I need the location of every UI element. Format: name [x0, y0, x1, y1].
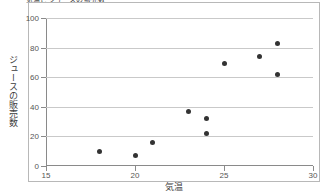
- data-point: [204, 131, 209, 136]
- data-point: [97, 149, 102, 154]
- gridline-horizontal: [46, 107, 313, 108]
- gridline-horizontal: [46, 136, 313, 137]
- x-axis-tick-label: 20: [131, 171, 140, 180]
- gridline-horizontal: [46, 48, 313, 49]
- x-axis-tick-label: 25: [220, 171, 229, 180]
- x-axis-line: [46, 165, 313, 166]
- y-axis-tick: [41, 18, 46, 19]
- y-axis-tick-label: 40: [30, 102, 39, 111]
- gridline-horizontal: [46, 77, 313, 78]
- y-axis-tick-label: 20: [30, 132, 39, 141]
- y-axis-tick: [41, 136, 46, 137]
- y-axis-tick: [41, 48, 46, 49]
- data-point: [275, 41, 280, 46]
- y-axis-tick: [41, 77, 46, 78]
- data-point: [257, 54, 262, 59]
- data-point: [150, 140, 155, 145]
- data-point: [204, 116, 209, 121]
- scatter-chart-figure: 気温とジュースの販売数 ジュースの販売数 0204060801001520253…: [0, 0, 324, 193]
- y-axis-tick-label: 80: [30, 43, 39, 52]
- x-axis-tick-label: 15: [42, 171, 51, 180]
- plot-area: 02040608010015202530: [46, 18, 313, 166]
- data-point: [133, 153, 138, 158]
- y-axis-tick-label: 100: [26, 14, 39, 23]
- y-axis-tick: [41, 107, 46, 108]
- y-axis-tick-label: 60: [30, 73, 39, 82]
- data-point: [186, 109, 191, 114]
- x-axis-tick-label: 30: [309, 171, 318, 180]
- data-point: [222, 61, 227, 66]
- y-axis-tick-label: 0: [35, 162, 39, 171]
- y-axis-title: ジュースの販売数: [6, 26, 20, 156]
- x-axis-title: 気温: [28, 182, 320, 193]
- y-axis-line: [46, 18, 47, 166]
- data-point: [275, 72, 280, 77]
- gridline-horizontal: [46, 18, 313, 19]
